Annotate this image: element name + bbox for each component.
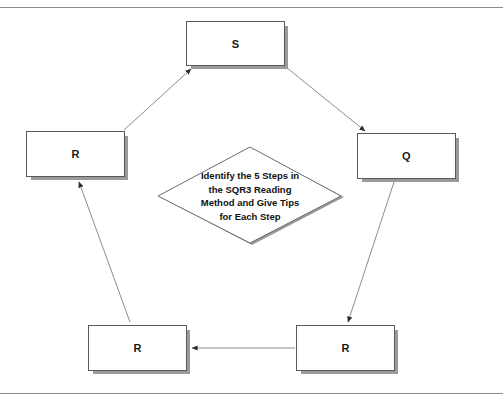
node-label-r-left: R [71, 148, 79, 160]
node-label-r-bottom-right: R [341, 342, 349, 354]
edge-r-left-to-s [124, 69, 191, 130]
node-box-r-left[interactable]: R [26, 131, 125, 177]
node-box-s[interactable]: S [186, 21, 285, 66]
node-label-q: Q [402, 150, 411, 162]
edge-s-to-q [286, 67, 365, 131]
diamond-shape-icon [155, 146, 345, 246]
node-label-r-bottom-left: R [133, 342, 141, 354]
diagram-canvas: S Q R R R Identify the 5 Steps in the SQ… [0, 0, 503, 408]
node-box-r-bottom-right[interactable]: R [296, 325, 395, 371]
node-label-s: S [232, 38, 240, 50]
node-box-q[interactable]: Q [357, 133, 456, 179]
node-box-r-bottom-left[interactable]: R [88, 325, 187, 371]
center-diamond[interactable]: Identify the 5 Steps in the SQR3 Reading… [155, 146, 345, 246]
edge-r-bottom-left-to-r-left [79, 182, 130, 322]
edge-q-to-r-bottom-right [348, 182, 394, 322]
